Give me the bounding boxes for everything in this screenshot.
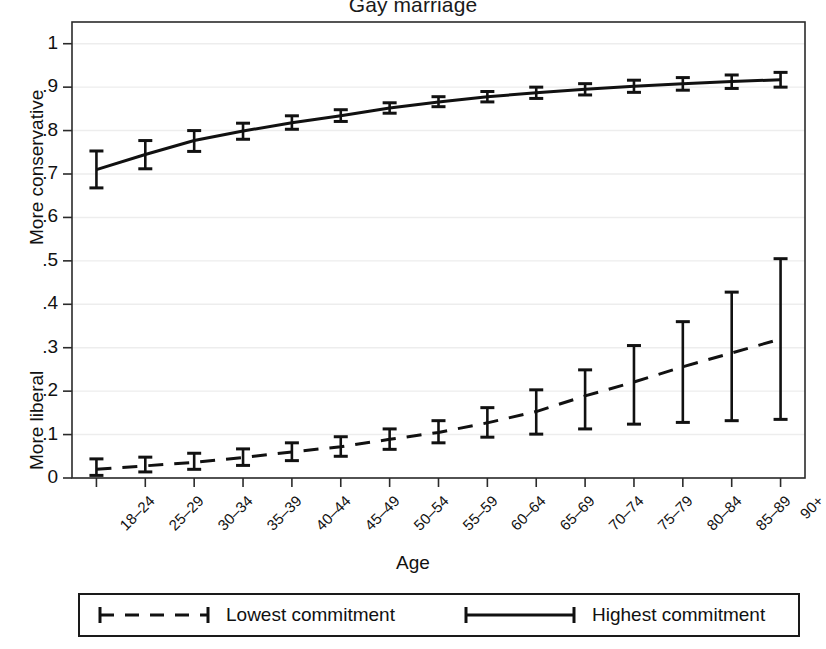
series-lowest-commitment — [89, 259, 787, 476]
axis-frame — [72, 22, 805, 478]
legend-label-highest-commitment: Highest commitment — [592, 604, 765, 626]
legend-key-solid-icon — [460, 603, 580, 627]
y-axis-ticks — [63, 44, 72, 478]
legend-item-lowest-commitment[interactable]: Lowest commitment — [94, 595, 395, 635]
legend-key-dashed-icon — [94, 603, 214, 627]
gridlines — [72, 44, 805, 478]
legend: Lowest commitment Highest commitment — [78, 593, 800, 637]
plot-area — [0, 0, 826, 649]
data-series-layer — [89, 72, 787, 475]
legend-label-lowest-commitment: Lowest commitment — [226, 604, 395, 626]
x-axis-ticks — [96, 478, 780, 487]
chart-figure: Gay marriage More conservative More libe… — [0, 0, 826, 649]
legend-item-highest-commitment[interactable]: Highest commitment — [460, 595, 765, 635]
